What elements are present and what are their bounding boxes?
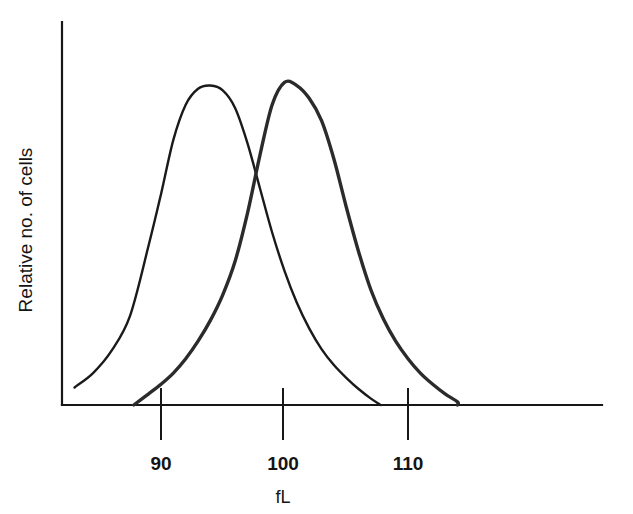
x-tick-label-0: 90 — [150, 453, 171, 474]
chart-series-group — [75, 81, 459, 405]
series-line-right — [134, 81, 458, 405]
x-tick-label-1: 100 — [267, 453, 299, 474]
x-axis-ticks — [161, 388, 408, 440]
x-axis-tick-labels: 90 100 110 — [150, 453, 423, 474]
x-axis-title: fL — [275, 487, 290, 507]
chart-figure: 90 100 110 fL Relative no. of cells — [0, 0, 633, 514]
chart-canvas: 90 100 110 fL Relative no. of cells — [0, 0, 633, 514]
series-line-left — [75, 85, 381, 405]
x-tick-label-2: 110 — [393, 453, 424, 474]
y-axis-title: Relative no. of cells — [15, 148, 36, 313]
